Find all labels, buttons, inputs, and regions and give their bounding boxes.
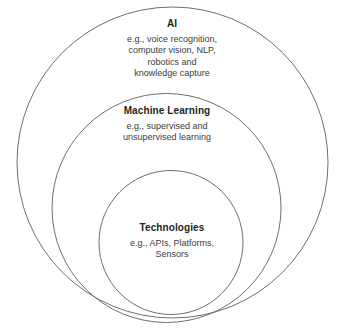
label-ai-description-line-2: computer vision, NLP,: [78, 45, 266, 57]
label-machine-learning-description-line-1: e.g., supervised and: [78, 121, 256, 133]
label-technologies-description-line-2: Sensors: [92, 249, 252, 261]
label-technologies-description-line-1: e.g., APIs, Platforms,: [92, 238, 252, 250]
label-ai-title: AI: [78, 18, 266, 31]
label-technologies-title: Technologies: [92, 222, 252, 235]
label-ai: AI e.g., voice recognition, computer vis…: [78, 18, 266, 80]
nested-circles-diagram: AI e.g., voice recognition, computer vis…: [0, 0, 346, 332]
label-ai-description-line-3: robotics and: [78, 57, 266, 69]
label-machine-learning-title: Machine Learning: [78, 105, 256, 118]
label-ai-description-line-1: e.g., voice recognition,: [78, 34, 266, 46]
label-technologies: Technologies e.g., APIs, Platforms, Sens…: [92, 222, 252, 261]
label-machine-learning: Machine Learning e.g., supervised and un…: [78, 105, 256, 144]
label-machine-learning-description-line-2: unsupervised learning: [78, 132, 256, 144]
label-ai-description-line-4: knowledge capture: [78, 68, 266, 80]
